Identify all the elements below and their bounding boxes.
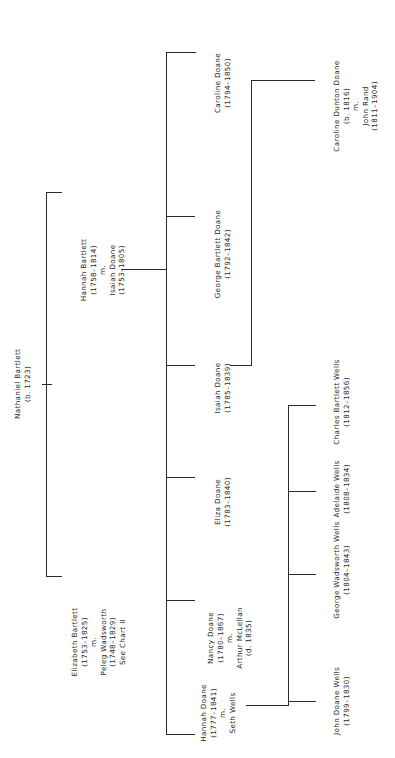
person-dates: (1794–1850): [223, 43, 233, 123]
person-dates: (b. 1723): [23, 349, 33, 419]
person-hannah-doane: Hannah Doane (1777–1841) m. Seth Wells: [199, 678, 237, 748]
person-dates: (1777–1841): [209, 678, 219, 748]
gen2-branch-hannah: [46, 192, 62, 193]
person-name: Nathaniel Bartlett: [13, 349, 23, 419]
spouse-name: John Rand: [361, 51, 371, 161]
person-dates: (1753–1825): [80, 597, 90, 687]
person-dates: (b. 1816): [342, 51, 352, 161]
doane-children-bracket: [166, 52, 167, 734]
person-dates: (1792–1842): [223, 199, 233, 309]
married-marker: m.: [89, 597, 99, 687]
person-name: Caroline Doane: [213, 43, 223, 123]
person-name: Caroline Dunton Doane: [332, 51, 342, 161]
spouse-dates: (d. 1835): [244, 598, 254, 678]
person-dates: (1785–1839): [223, 348, 233, 428]
person-name: George Wadsworth Wells: [332, 510, 342, 630]
spouse-name: Seth Wells: [228, 678, 238, 748]
person-caroline-doane: Caroline Doane (1794–1850): [213, 43, 235, 123]
person-dates: (1804–1843): [342, 510, 352, 630]
spouse-dates: (1811–1904): [370, 51, 380, 161]
person-hannah-bartlett: Hannah Bartlett (1758–1814) m. Isaiah Do…: [79, 225, 129, 315]
branch-caroline-dunton: [251, 80, 315, 81]
branch-adelaide: [288, 491, 316, 492]
branch-george: [166, 216, 195, 217]
person-dates: (1758–1814): [89, 225, 99, 315]
person-nathaniel-bartlett: Nathaniel Bartlett (b. 1723): [13, 349, 37, 419]
branch-isaiah: [166, 365, 195, 366]
wells-couple-connector: [246, 705, 288, 706]
married-marker: m.: [218, 678, 228, 748]
person-dates: (1783–1840): [223, 462, 233, 542]
person-john-doane-wells: John Doane Wells (1799–1830): [332, 656, 354, 746]
branch-eliza: [166, 477, 195, 478]
person-nancy-doane: Nancy Doane (1780–1867) m. Arthur McLell…: [206, 598, 252, 678]
spouse-name: Isaiah Doane: [108, 225, 118, 315]
branch-caroline: [166, 52, 196, 53]
person-eliza-doane: Eliza Doane (1783–1840): [213, 462, 235, 542]
branch-hannah-doane: [166, 734, 195, 735]
person-name: Elizabeth Bartlett: [70, 597, 80, 687]
person-name: Hannah Doane: [199, 678, 209, 748]
person-name: John Doane Wells: [332, 656, 342, 746]
person-dates: (1812–1856): [342, 347, 352, 457]
person-isaiah-doane: Isaiah Doane (1785–1839): [213, 348, 235, 428]
person-name: Eliza Doane: [213, 462, 223, 542]
spouse-name: Peleg Wadsworth: [99, 597, 109, 687]
isaiah-child-bracket: [251, 80, 252, 366]
person-dates: (1780–1867): [216, 598, 226, 678]
person-charles-bartlett-wells: Charles Bartlett Wells (1812–1856): [332, 347, 354, 457]
person-name: Charles Bartlett Wells: [332, 347, 342, 457]
married-marker: m.: [98, 225, 108, 315]
chart-reference: See Chart II: [118, 597, 128, 687]
married-marker: m.: [225, 598, 235, 678]
branch-john-wells: [288, 701, 316, 702]
gen2-bracket: [46, 192, 47, 576]
person-dates: (1799–1830): [342, 656, 352, 746]
branch-charles: [288, 405, 316, 406]
wells-children-bracket: [288, 405, 289, 706]
person-george-bartlett-doane: George Bartlett Doane (1792–1842): [213, 199, 235, 309]
spouse-dates: (1753–1805): [117, 225, 127, 315]
branch-nancy: [166, 600, 195, 601]
person-name: Isaiah Doane: [213, 348, 223, 428]
person-george-wadsworth-wells: George Wadsworth Wells (1804–1843): [332, 510, 354, 630]
spouse-dates: (1748–1829): [108, 597, 118, 687]
branch-george-wells: [288, 574, 316, 575]
person-name: Hannah Bartlett: [79, 225, 89, 315]
gen2-branch-elizabeth: [46, 576, 62, 577]
married-marker: m.: [351, 51, 361, 161]
person-elizabeth-bartlett: Elizabeth Bartlett (1753–1825) m. Peleg …: [70, 597, 130, 687]
spouse-name: Arthur McLellan: [235, 598, 245, 678]
person-caroline-dunton-doane: Caroline Dunton Doane (b. 1816) m. John …: [332, 51, 378, 161]
person-name: George Bartlett Doane: [213, 199, 223, 309]
person-name: Nancy Doane: [206, 598, 216, 678]
